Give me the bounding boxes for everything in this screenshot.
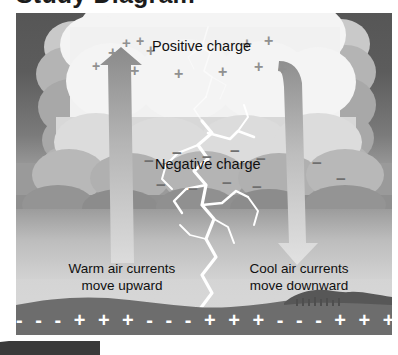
bottom-cutoff-wedge xyxy=(0,341,100,355)
page-title-strip: Study Diagram xyxy=(0,0,398,12)
ground-charge-sequence: - - - + + + - - - + + + - - - + + + - - … xyxy=(16,310,392,330)
ground-silhouette xyxy=(16,13,392,335)
page-title: Study Diagram xyxy=(16,0,195,9)
thunderstorm-charge-diagram: + + + + + + + + + + + + − − − − − − − − … xyxy=(16,13,392,335)
